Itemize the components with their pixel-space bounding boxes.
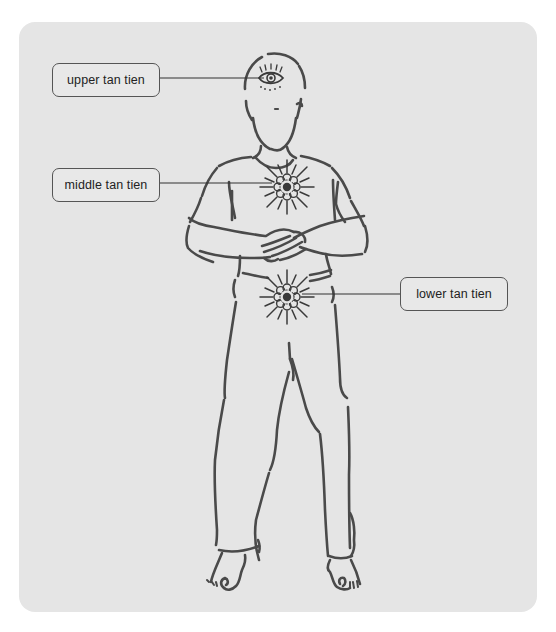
middle-tan-tien-label-text: middle tan tien [65, 178, 148, 192]
lower-energy-center-icon [260, 270, 314, 324]
upper-tan-tien-label: upper tan tien [52, 63, 160, 97]
middle-energy-center-icon [260, 160, 314, 214]
middle-tan-tien-label: middle tan tien [52, 168, 160, 202]
head-outline [245, 53, 305, 150]
lower-tan-tien-label-text: lower tan tien [416, 287, 492, 301]
legs-outline [215, 302, 355, 560]
arms-outline [187, 216, 368, 262]
lower-tan-tien-label: lower tan tien [400, 277, 508, 311]
upper-tan-tien-label-text: upper tan tien [67, 73, 145, 87]
